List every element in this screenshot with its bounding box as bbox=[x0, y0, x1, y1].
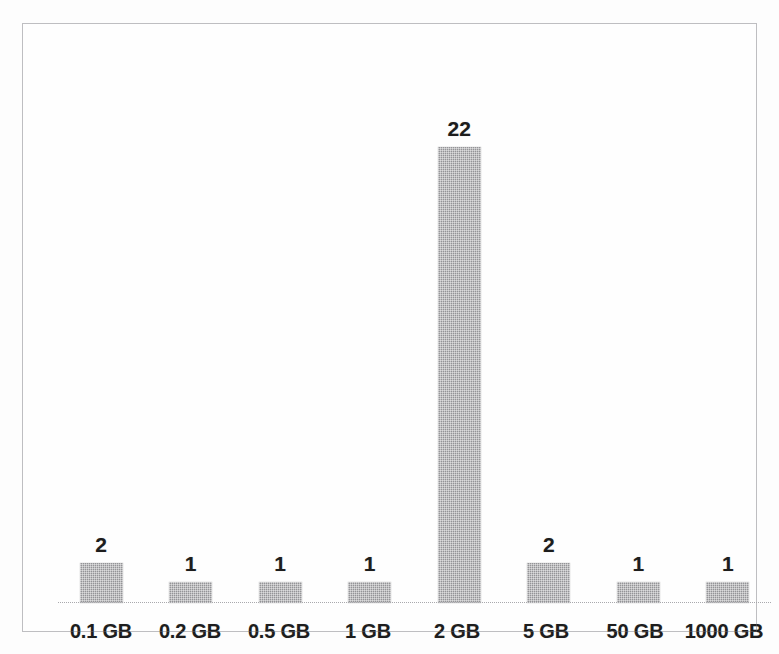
bar-rect bbox=[438, 147, 481, 603]
bar-value-label: 22 bbox=[448, 118, 471, 139]
clipped-header-text bbox=[0, 0, 779, 9]
bar-rect bbox=[527, 563, 570, 603]
bar-value-label: 1 bbox=[722, 553, 734, 574]
bar-slot: 1 bbox=[327, 48, 413, 603]
bar-series: 2 1 1 1 22 bbox=[58, 48, 771, 603]
page-background: 2 1 1 1 22 bbox=[0, 0, 779, 654]
x-axis-tick-labels: 0.1 GB 0.2 GB 0.5 GB 1 GB 2 GB 5 GB 50 G… bbox=[46, 620, 779, 652]
bar-slot: 1 bbox=[237, 48, 323, 603]
bar-slot: 1 bbox=[595, 48, 681, 603]
bar-value-label: 1 bbox=[185, 553, 197, 574]
plot-area: 2 1 1 1 22 bbox=[46, 48, 779, 603]
x-tick-label: 1 GB bbox=[325, 620, 411, 652]
bar-value-label: 2 bbox=[95, 534, 107, 555]
chart-frame: 2 1 1 1 22 bbox=[22, 23, 757, 632]
bar-rect bbox=[706, 582, 749, 603]
category-axis-line bbox=[58, 602, 771, 603]
bar-value-label: 1 bbox=[633, 553, 645, 574]
bar-value-label: 2 bbox=[543, 534, 555, 555]
x-tick-label: 1000 GB bbox=[681, 620, 767, 652]
bar-rect bbox=[348, 582, 391, 603]
bar-rect bbox=[169, 582, 212, 603]
bar-value-label: 1 bbox=[274, 553, 286, 574]
x-tick-label: 5 GB bbox=[503, 620, 589, 652]
x-tick-label: 50 GB bbox=[592, 620, 678, 652]
bar-rect bbox=[617, 582, 660, 603]
x-tick-label: 0.2 GB bbox=[147, 620, 233, 652]
x-tick-label: 2 GB bbox=[414, 620, 500, 652]
x-tick-label: 0.1 GB bbox=[58, 620, 144, 652]
bar-value-label: 1 bbox=[364, 553, 376, 574]
bar-rect bbox=[80, 563, 123, 603]
bar-slot: 22 bbox=[416, 48, 502, 603]
x-tick-label: 0.5 GB bbox=[236, 620, 322, 652]
bar-slot: 1 bbox=[148, 48, 234, 603]
bar-slot: 2 bbox=[506, 48, 592, 603]
bar-rect bbox=[259, 582, 302, 603]
bar-slot: 2 bbox=[58, 48, 144, 603]
bar-slot: 1 bbox=[685, 48, 771, 603]
